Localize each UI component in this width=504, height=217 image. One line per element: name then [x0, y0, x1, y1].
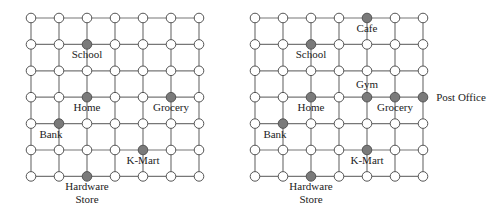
intersection-node [250, 145, 260, 155]
intersection-node [306, 66, 316, 76]
location-node [362, 92, 372, 102]
intersection-node [26, 66, 36, 76]
intersection-node [250, 92, 260, 102]
intersection-node [334, 145, 344, 155]
location-label: Cafe [357, 22, 378, 34]
intersection-node [362, 119, 372, 129]
intersection-node [194, 13, 204, 23]
intersection-node [418, 119, 428, 129]
location-node [418, 92, 428, 102]
intersection-node [26, 119, 36, 129]
intersection-node [82, 145, 92, 155]
intersection-node [54, 145, 64, 155]
intersection-node [334, 66, 344, 76]
intersection-node [334, 172, 344, 182]
intersection-node [362, 66, 372, 76]
intersection-node [54, 40, 64, 50]
intersection-node [250, 66, 260, 76]
intersection-node [166, 66, 176, 76]
intersection-node [390, 66, 400, 76]
intersection-node [278, 172, 288, 182]
location-label: Grocery [153, 101, 190, 113]
intersection-node [110, 92, 120, 102]
intersection-node [166, 40, 176, 50]
intersection-node [250, 119, 260, 129]
location-label: Post Office [436, 91, 486, 103]
intersection-node [334, 40, 344, 50]
location-label: Gym [356, 78, 378, 90]
intersection-node [194, 66, 204, 76]
intersection-node [110, 172, 120, 182]
location-label: Bank [39, 128, 63, 140]
intersection-node [54, 92, 64, 102]
intersection-node [418, 145, 428, 155]
location-label: HardwareStore [289, 180, 332, 205]
intersection-node [138, 119, 148, 129]
location-label: Bank [263, 128, 287, 140]
intersection-node [362, 172, 372, 182]
intersection-node [138, 66, 148, 76]
intersection-node [278, 13, 288, 23]
intersection-node [82, 66, 92, 76]
intersection-node [418, 172, 428, 182]
intersection-node [110, 145, 120, 155]
intersection-node [334, 13, 344, 23]
intersection-node [334, 119, 344, 129]
intersection-node [194, 92, 204, 102]
intersection-node [278, 92, 288, 102]
intersection-node [418, 40, 428, 50]
intersection-node [26, 40, 36, 50]
intersection-node [306, 13, 316, 23]
intersection-node [26, 145, 36, 155]
intersection-node [194, 172, 204, 182]
location-label: K-Mart [351, 154, 384, 166]
intersection-node [26, 172, 36, 182]
intersection-node [390, 145, 400, 155]
location-label: School [72, 48, 103, 60]
city-grid-maps: SchoolHomeGroceryBankK-MartHardwareStore… [0, 0, 504, 217]
intersection-node [334, 92, 344, 102]
intersection-node [26, 92, 36, 102]
intersection-node [166, 145, 176, 155]
location-label: Home [298, 101, 325, 113]
intersection-node [54, 13, 64, 23]
intersection-node [82, 13, 92, 23]
location-label: Home [74, 101, 101, 113]
intersection-node [166, 172, 176, 182]
intersection-node [82, 119, 92, 129]
map-right: CafeSchoolGymHomeGroceryPost OfficeBankK… [250, 13, 486, 205]
intersection-node [138, 172, 148, 182]
intersection-node [110, 13, 120, 23]
intersection-node [26, 13, 36, 23]
intersection-node [194, 119, 204, 129]
intersection-node [138, 92, 148, 102]
intersection-node [166, 13, 176, 23]
intersection-node [250, 40, 260, 50]
intersection-node [54, 172, 64, 182]
intersection-node [110, 40, 120, 50]
intersection-node [390, 13, 400, 23]
intersection-node [278, 66, 288, 76]
intersection-node [54, 66, 64, 76]
intersection-node [306, 145, 316, 155]
intersection-node [110, 66, 120, 76]
intersection-node [278, 40, 288, 50]
intersection-node [138, 40, 148, 50]
location-label: Grocery [377, 101, 414, 113]
intersection-node [166, 119, 176, 129]
location-label: School [296, 48, 327, 60]
intersection-node [418, 13, 428, 23]
intersection-node [306, 119, 316, 129]
intersection-node [250, 172, 260, 182]
intersection-node [250, 13, 260, 23]
intersection-node [390, 119, 400, 129]
location-label: K-Mart [127, 154, 160, 166]
intersection-node [362, 40, 372, 50]
intersection-node [194, 145, 204, 155]
intersection-node [194, 40, 204, 50]
intersection-node [390, 40, 400, 50]
intersection-node [278, 145, 288, 155]
intersection-node [418, 66, 428, 76]
intersection-node [390, 172, 400, 182]
intersection-node [138, 13, 148, 23]
